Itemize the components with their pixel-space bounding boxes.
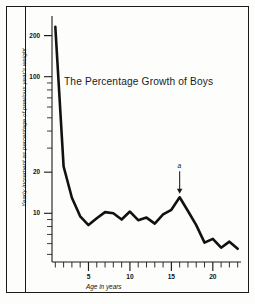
y-tick-label-200: 200 (18, 32, 40, 39)
figure-container: Yearly increment as percentage of previo… (0, 0, 255, 304)
data-curve-group (55, 27, 237, 249)
y-tick-label-20: 20 (18, 168, 40, 175)
chart-title: The Percentage Growth of Boys (64, 76, 242, 87)
annotation-label-a: a (177, 162, 181, 169)
y-tick-label-10: 10 (18, 209, 40, 216)
x-tick-label-5: 5 (81, 273, 95, 280)
y-tick-label-100: 100 (18, 73, 40, 80)
x-tick-label-10: 10 (123, 273, 137, 280)
plot-canvas (0, 0, 255, 304)
annotation-arrow-group (177, 171, 182, 194)
x-tick-label-15: 15 (164, 273, 178, 280)
x-tick-label-20: 20 (206, 273, 220, 280)
x-axis-caption: Age in years (86, 283, 122, 290)
axes-group (44, 16, 241, 271)
